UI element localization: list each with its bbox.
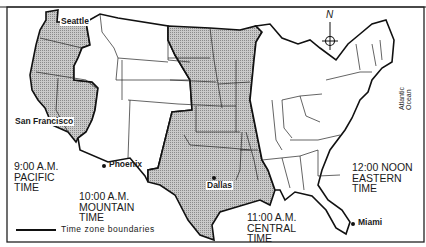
zone-time: 9:00 A.M.	[14, 161, 58, 172]
zone-time: 11:00 A.M.	[247, 212, 296, 223]
city-label-san-francisco: San Francisco	[14, 117, 74, 126]
legend-label: Time zone boundaries	[61, 225, 155, 234]
zone-time: 12:00 NOON	[352, 162, 413, 173]
city-label-seattle: Seattle	[60, 17, 90, 26]
zone-suffix: TIME	[352, 183, 413, 194]
city-label-phoenix: Phoenix	[108, 160, 143, 169]
compass-north-label: N	[326, 10, 333, 20]
zone-suffix: TIME	[14, 182, 58, 193]
zone-label-central: 11:00 A.M. CENTRAL TIME	[247, 212, 296, 244]
zone-label-eastern: 12:00 NOON EASTERN TIME	[352, 162, 413, 194]
city-label-dallas: Dallas	[206, 181, 233, 190]
zone-suffix: TIME	[79, 212, 134, 223]
city-label-miami: Miami	[357, 218, 383, 227]
zone-time: 10:00 A.M.	[79, 191, 134, 202]
compass-icon	[322, 22, 338, 50]
ocean-label: Atlantic Ocean	[398, 82, 412, 110]
zone-suffix: TIME	[247, 233, 296, 244]
zone-label-mountain: 10:00 A.M. MOUNTAIN TIME	[79, 191, 134, 223]
city-marker-miami	[351, 222, 355, 226]
city-marker-phoenix	[102, 164, 106, 168]
zone-label-pacific: 9:00 A.M. PACIFIC TIME	[14, 161, 58, 193]
legend-boundary-swatch	[16, 229, 56, 231]
